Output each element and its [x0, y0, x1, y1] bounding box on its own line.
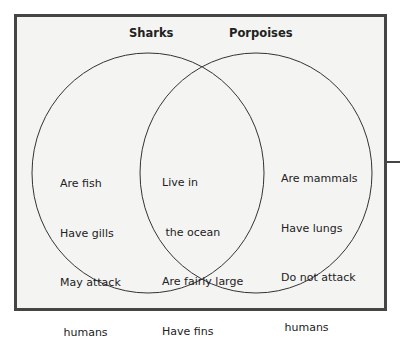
- overlap-items: Live in the ocean Are fairly large Have …: [162, 142, 243, 340]
- porpoises-item: Have lungs: [281, 221, 357, 238]
- sharks-item: Have gills: [60, 226, 121, 243]
- overlap-item: Live in: [162, 175, 243, 192]
- porpoises-label: Porpoises: [229, 26, 293, 40]
- porpoises-item: humans: [281, 320, 357, 337]
- overlap-item: the ocean: [162, 225, 243, 242]
- sharks-items: Are fish Have gills May attack humans: [60, 143, 121, 340]
- porpoises-item: Are mammals: [281, 171, 357, 188]
- overlap-item: Are fairly large: [162, 274, 243, 291]
- porpoises-item: Do not attack: [281, 270, 357, 287]
- sharks-item: May attack: [60, 275, 121, 292]
- overlap-item: Have fins: [162, 324, 243, 340]
- porpoises-items: Are mammals Have lungs Do not attack hum…: [281, 138, 357, 340]
- sharks-label: Sharks: [129, 26, 173, 40]
- sharks-item: Are fish: [60, 176, 121, 193]
- sharks-item: humans: [60, 325, 121, 340]
